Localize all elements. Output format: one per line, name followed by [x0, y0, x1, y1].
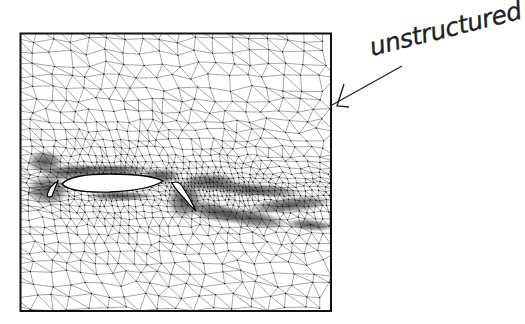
mesh-area: [12, 26, 337, 311]
annotation-arrowhead-icon: [337, 84, 349, 107]
mesh-diagram: unstructured: [0, 0, 525, 324]
main-element: [62, 174, 163, 192]
annotation: unstructured: [332, 0, 525, 107]
annotation-label: unstructured: [366, 0, 525, 62]
annotation-arrow-shaft: [332, 66, 402, 105]
